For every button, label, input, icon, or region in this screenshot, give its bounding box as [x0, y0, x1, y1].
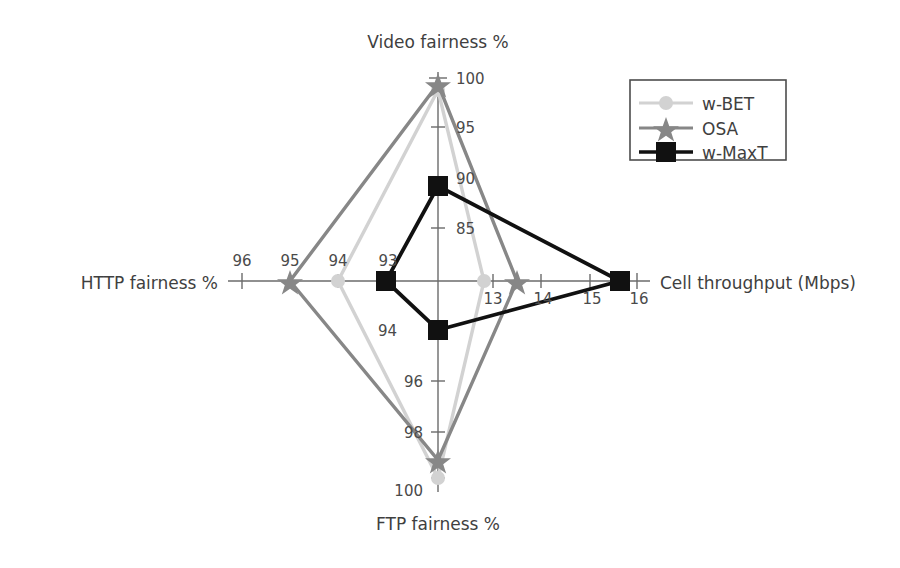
marker-w-maxt-throughput: [610, 271, 630, 291]
radar-chart-figure: 100 95 90 85 94 96 98 100 96 95 94 93 13…: [0, 0, 900, 568]
axis-title-ftp: FTP fairness %: [376, 514, 500, 534]
axis-title-throughput: Cell throughput (Mbps): [660, 273, 856, 293]
legend-marker-square-icon: [656, 142, 676, 162]
legend-marker-circle-icon: [659, 96, 673, 110]
marker-w-bet-http: [331, 274, 345, 288]
marker-w-bet-ftp: [431, 471, 445, 485]
tick-label-http-93: 93: [378, 252, 397, 270]
marker-w-maxt-ftp: [428, 320, 448, 340]
legend-entry-w-maxt[interactable]: w-MaxT: [639, 142, 768, 163]
tick-label-throughput-14: 14: [533, 290, 552, 308]
marker-w-maxt-video: [428, 176, 448, 196]
axis-title-http: HTTP fairness %: [81, 273, 218, 293]
marker-osa-throughput: [504, 270, 530, 295]
marker-w-bet-throughput: [477, 274, 491, 288]
tick-label-throughput-13: 13: [483, 290, 502, 308]
tick-label-video-100: 100: [456, 70, 485, 88]
tick-label-ftp-94: 94: [378, 322, 397, 340]
radar-chart-svg: 100 95 90 85 94 96 98 100 96 95 94 93 13…: [0, 0, 900, 568]
tick-label-throughput-16: 16: [629, 290, 648, 308]
tick-label-http-96: 96: [232, 252, 251, 270]
series-w-maxt-polygon: [386, 186, 620, 330]
tick-label-video-85: 85: [456, 220, 475, 238]
legend: w-BET OSA w-MaxT: [630, 80, 786, 163]
tick-label-ftp-96: 96: [404, 373, 423, 391]
tick-label-http-95: 95: [280, 252, 299, 270]
marker-w-maxt-http: [376, 271, 396, 291]
tick-label-http-94: 94: [328, 252, 347, 270]
legend-label-osa: OSA: [702, 119, 738, 139]
tick-label-video-95: 95: [456, 119, 475, 137]
tick-label-throughput-15: 15: [582, 290, 601, 308]
tick-marks-group: [242, 78, 637, 478]
axis-title-video: Video fairness %: [367, 32, 508, 52]
tick-label-ftp-100: 100: [394, 482, 423, 500]
tick-label-video-90: 90: [456, 170, 475, 188]
legend-label-w-bet: w-BET: [702, 94, 755, 114]
legend-label-w-maxt: w-MaxT: [702, 143, 768, 163]
tick-label-ftp-98: 98: [404, 424, 423, 442]
